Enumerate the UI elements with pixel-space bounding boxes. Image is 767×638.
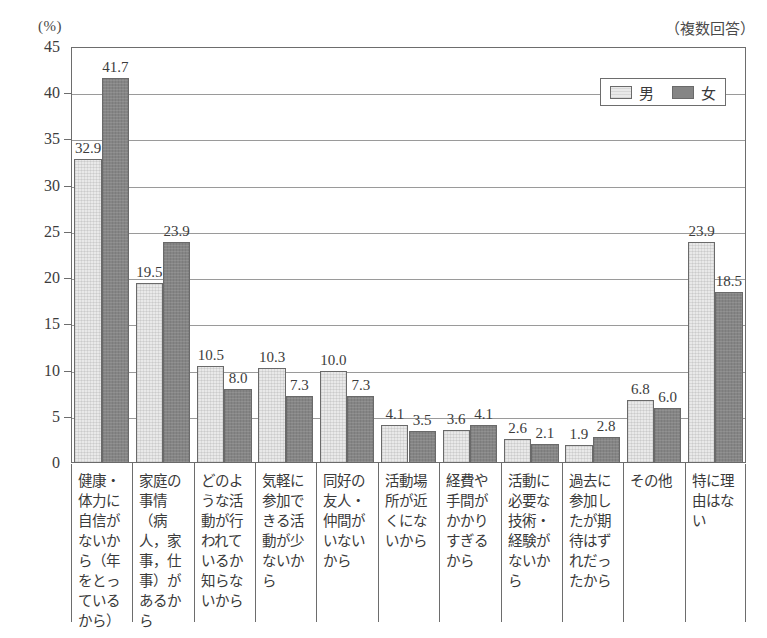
bar-male bbox=[136, 283, 163, 463]
bar-male bbox=[504, 439, 531, 463]
bar-male bbox=[443, 430, 470, 463]
bar-male bbox=[565, 445, 592, 463]
bar-female bbox=[102, 78, 129, 463]
bar-value-label: 18.5 bbox=[716, 273, 742, 290]
y-axis-tick-label: 40 bbox=[26, 84, 60, 102]
category-label-text: 活動に必要な技術・経験がないから bbox=[508, 471, 557, 591]
y-axis-tick-mark bbox=[64, 278, 71, 279]
y-axis-tick-label: 45 bbox=[26, 38, 60, 56]
bar-female bbox=[531, 444, 558, 463]
y-axis-unit-label: (%) bbox=[38, 18, 62, 35]
bar-value-label: 10.0 bbox=[320, 352, 346, 369]
chart-root: (%) （複数回答） 051015202530354045 32.919.510… bbox=[0, 0, 767, 638]
bar-male bbox=[688, 242, 715, 463]
bar-male bbox=[320, 371, 347, 463]
bar-value-label: 41.7 bbox=[102, 59, 128, 76]
bar-value-label: 4.1 bbox=[385, 406, 404, 423]
bar-female bbox=[224, 389, 251, 463]
legend-item-female: 女 bbox=[672, 82, 716, 103]
category-label-cell: 同好の友人・仲間がいないから bbox=[316, 464, 377, 622]
category-label-text: 特に理由はない bbox=[692, 471, 740, 531]
y-axis-tick-label: 35 bbox=[26, 130, 60, 148]
bar-value-label: 23.9 bbox=[689, 223, 715, 240]
category-label-text: 同好の友人・仲間がいないから bbox=[323, 471, 372, 571]
category-label-cell: 特に理由はない bbox=[685, 464, 746, 622]
bar-value-label: 8.0 bbox=[229, 370, 248, 387]
bar-value-label: 3.6 bbox=[447, 411, 466, 428]
category-label-text: 活動場所が近くにないから bbox=[385, 471, 434, 551]
category-label-cell: どのような活動が行われているか知らないから bbox=[194, 464, 255, 622]
y-axis-tick-mark bbox=[64, 417, 71, 418]
legend-item-male: 男 bbox=[610, 82, 654, 103]
bar-female bbox=[715, 292, 742, 463]
bar-female bbox=[654, 408, 681, 463]
bar-value-label: 10.5 bbox=[198, 347, 224, 364]
bar-male bbox=[74, 159, 101, 463]
category-label-text: 過去に参加したが期待はずれだったから bbox=[569, 471, 618, 591]
bar-male bbox=[258, 368, 285, 463]
y-axis-tick-label: 10 bbox=[26, 362, 60, 380]
y-axis-tick-mark bbox=[64, 139, 71, 140]
y-axis-tick-label: 0 bbox=[26, 454, 60, 472]
bar-value-label: 7.3 bbox=[351, 377, 370, 394]
y-axis-tick-label: 15 bbox=[26, 315, 60, 333]
legend-label-female: 女 bbox=[701, 82, 716, 103]
category-label-table: 健康・体力に自信がないから（年をとっているから）家庭の事情（病人，家事，仕事）が… bbox=[71, 464, 746, 622]
category-label-cell: 健康・体力に自信がないから（年をとっているから） bbox=[71, 464, 132, 622]
bar-male bbox=[381, 425, 408, 463]
bar-value-label: 19.5 bbox=[136, 264, 162, 281]
category-label-cell: その他 bbox=[623, 464, 684, 622]
category-label-cell: 家庭の事情（病人，家事，仕事）があるから bbox=[132, 464, 193, 622]
y-axis-tick-label: 30 bbox=[26, 177, 60, 195]
bar-value-label: 1.9 bbox=[570, 426, 589, 443]
category-label-text: 気軽に参加できる活動が少ないから bbox=[262, 471, 311, 591]
y-axis-tick-label: 25 bbox=[26, 223, 60, 241]
bar-value-label: 32.9 bbox=[75, 140, 101, 157]
category-label-text: 健康・体力に自信がないから（年をとっているから） bbox=[78, 471, 127, 631]
bar-male bbox=[197, 366, 224, 463]
bar-value-label: 6.0 bbox=[658, 389, 677, 406]
legend-swatch-male-icon bbox=[610, 86, 632, 99]
y-axis-tick-mark bbox=[64, 324, 71, 325]
bar-female bbox=[347, 396, 374, 463]
category-label-text: 経費や手間がかかりすぎるから bbox=[446, 471, 495, 571]
bar-female bbox=[163, 242, 190, 463]
y-axis-tick-label: 20 bbox=[26, 269, 60, 287]
y-axis-tick-mark bbox=[64, 186, 71, 187]
bar-value-label: 23.9 bbox=[164, 223, 190, 240]
bars-layer: 32.919.510.510.310.04.13.62.61.96.823.94… bbox=[71, 47, 746, 463]
category-label-cell: 活動場所が近くにないから bbox=[378, 464, 439, 622]
category-label-text: 家庭の事情（病人，家事，仕事）があるから bbox=[139, 471, 188, 631]
bar-value-label: 2.6 bbox=[508, 420, 527, 437]
bar-value-label: 4.1 bbox=[474, 406, 493, 423]
category-label-cell: 活動に必要な技術・経験がないから bbox=[501, 464, 562, 622]
bar-value-label: 3.5 bbox=[413, 412, 432, 429]
category-label-cell: 気軽に参加できる活動が少ないから bbox=[255, 464, 316, 622]
y-axis-tick-mark bbox=[64, 232, 71, 233]
bar-female bbox=[286, 396, 313, 463]
legend-swatch-female-icon bbox=[672, 86, 694, 99]
bar-male bbox=[627, 400, 654, 463]
y-axis-tick-mark bbox=[64, 371, 71, 372]
legend-label-male: 男 bbox=[639, 82, 654, 103]
bar-value-label: 2.8 bbox=[597, 418, 616, 435]
bar-value-label: 7.3 bbox=[290, 377, 309, 394]
category-label-cell: 経費や手間がかかりすぎるから bbox=[439, 464, 500, 622]
category-label-cell: 過去に参加したが期待はずれだったから bbox=[562, 464, 623, 622]
multiple-answer-note: （複数回答） bbox=[665, 17, 755, 38]
bar-value-label: 10.3 bbox=[259, 349, 285, 366]
bar-female bbox=[470, 425, 497, 463]
bar-value-label: 6.8 bbox=[631, 381, 650, 398]
bar-female bbox=[409, 431, 436, 463]
legend: 男 女 bbox=[600, 78, 726, 106]
category-label-text: どのような活動が行われているか知らないから bbox=[201, 471, 250, 611]
category-label-text: その他 bbox=[630, 471, 679, 491]
bar-female bbox=[593, 437, 620, 463]
bar-value-label: 2.1 bbox=[536, 425, 555, 442]
y-axis-tick-mark bbox=[64, 93, 71, 94]
y-axis-tick-label: 5 bbox=[26, 408, 60, 426]
